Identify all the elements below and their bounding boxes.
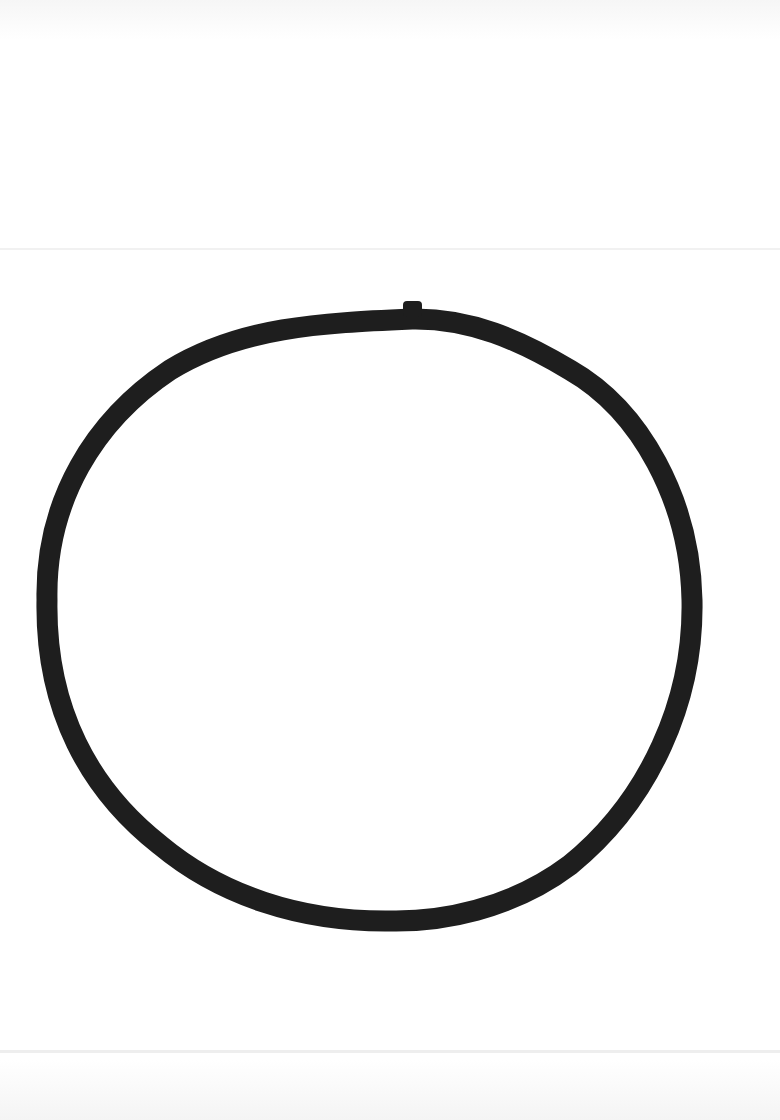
- ink-circle-icon: [47, 319, 692, 921]
- paper-background: Hand-drawn black ink circle on white pap…: [0, 0, 780, 1120]
- ink-circle-drawing: [0, 0, 780, 1120]
- ink-bump-mark: [403, 301, 422, 317]
